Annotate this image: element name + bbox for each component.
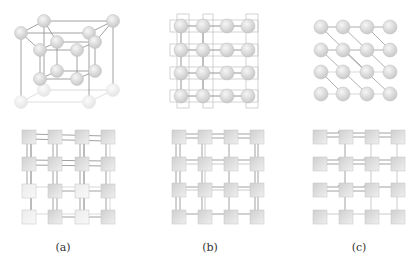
panel-b-sphere-grid (170, 14, 258, 108)
panel-c-label: (c) (352, 241, 367, 254)
panel-a-cube-lattice (15, 15, 120, 109)
panel-b-label: (b) (202, 241, 218, 254)
lattice-figure (0, 0, 417, 266)
panel-a-tile-grid (22, 130, 115, 224)
panel-c-sphere-grid (314, 20, 397, 101)
panel-c-tile-grid (313, 130, 405, 224)
panel-a-label: (a) (55, 241, 70, 254)
panel-b-tile-grid (172, 130, 264, 224)
